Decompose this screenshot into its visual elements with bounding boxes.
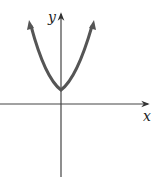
y-axis-label: y [47,9,57,25]
parabola-graph: y x [0,0,168,178]
x-axis-label: x [143,108,151,124]
